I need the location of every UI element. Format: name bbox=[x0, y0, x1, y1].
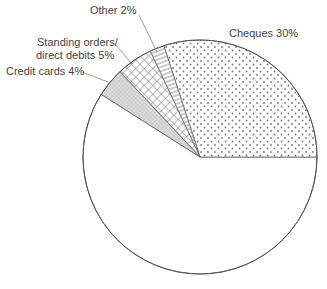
label-standing-orders-line1: Standing orders/ bbox=[37, 36, 118, 49]
label-standing-orders-line2: direct debits 5% bbox=[36, 49, 114, 62]
leader-standing-orders bbox=[116, 45, 132, 64]
label-cheques: Cheques 30% bbox=[229, 27, 298, 40]
label-credit-cards: Credit cards 4% bbox=[6, 65, 84, 78]
label-other: Other 2% bbox=[90, 4, 136, 17]
leader-other bbox=[139, 15, 157, 52]
leader-credit-cards bbox=[82, 72, 108, 82]
